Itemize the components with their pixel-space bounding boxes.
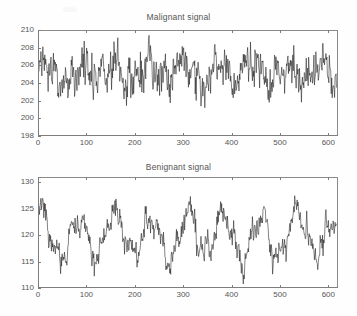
y-tick-mark [38, 136, 41, 137]
plot-area-malignant [38, 30, 338, 136]
chart-title-malignant: Malignant signal [0, 12, 357, 22]
y-tick-label: 210 [0, 26, 34, 34]
figure-page: Malignant signal 198200202204206208210 0… [0, 0, 357, 316]
y-tick-label: 110 [0, 284, 34, 292]
x-tick-label: 300 [168, 139, 198, 147]
signal-trace-malignant [39, 31, 337, 135]
y-tick-label: 115 [0, 258, 34, 266]
x-tick-label: 100 [71, 139, 101, 147]
y-tick-label: 202 [0, 97, 34, 105]
x-tick-label: 200 [120, 291, 150, 299]
x-tick-label: 200 [120, 139, 150, 147]
y-tick-mark [38, 288, 41, 289]
x-tick-label: 600 [313, 291, 343, 299]
y-tick-label: 125 [0, 205, 34, 213]
y-tick-label: 198 [0, 132, 34, 140]
y-tick-label: 208 [0, 44, 34, 52]
chart-title-benignant: Benignant signal [0, 162, 357, 172]
y-tick-label: 130 [0, 178, 34, 186]
y-tick-label: 204 [0, 79, 34, 87]
chart-malignant-signal: Malignant signal 198200202204206208210 0… [0, 0, 357, 155]
y-tick-label: 120 [0, 231, 34, 239]
x-tick-label: 600 [313, 139, 343, 147]
x-tick-label: 0 [23, 139, 53, 147]
signal-trace-benignant [39, 178, 337, 287]
x-tick-label: 500 [265, 291, 295, 299]
x-tick-label: 500 [265, 139, 295, 147]
x-tick-label: 400 [217, 291, 247, 299]
y-tick-label: 206 [0, 61, 34, 69]
plot-area-benignant [38, 177, 338, 288]
y-tick-label: 200 [0, 114, 34, 122]
x-tick-label: 400 [217, 139, 247, 147]
x-tick-label: 300 [168, 291, 198, 299]
x-tick-label: 100 [71, 291, 101, 299]
x-tick-label: 0 [23, 291, 53, 299]
chart-benignant-signal: Benignant signal 110115120125130 0100200… [0, 155, 357, 316]
